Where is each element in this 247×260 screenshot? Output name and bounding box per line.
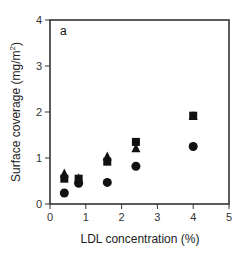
x-axis-title: LDL concentration (%) [81, 232, 200, 246]
y-axis-ticks: 01234 [36, 14, 50, 210]
x-tick-label: 5 [226, 211, 232, 223]
y-tick-label: 4 [36, 14, 42, 26]
square-marker [103, 158, 111, 166]
square-marker [132, 138, 140, 146]
x-tick-label: 1 [83, 211, 89, 223]
square-marker [60, 175, 68, 183]
x-tick-label: 4 [190, 211, 196, 223]
scatter-chart: 01234 012345 a LDL concentration (%) Sur… [0, 0, 247, 260]
circle-marker [189, 142, 198, 151]
x-tick-label: 3 [154, 211, 160, 223]
x-axis-ticks: 012345 [47, 204, 232, 223]
y-axis-title: Surface coverage (mg/m2) [8, 42, 23, 182]
y-axis-title-main: Surface coverage (mg/m [9, 51, 23, 182]
x-tick-label: 2 [119, 211, 125, 223]
panel-label: a [60, 24, 67, 38]
y-axis-title-end: ) [9, 42, 23, 46]
y-tick-label: 1 [36, 152, 42, 164]
x-tick-label: 0 [47, 211, 53, 223]
circle-marker [60, 188, 69, 197]
circle-marker [74, 179, 83, 188]
y-tick-label: 0 [36, 198, 42, 210]
y-tick-label: 3 [36, 60, 42, 72]
square-marker [189, 112, 197, 120]
circle-marker [131, 162, 140, 171]
circle-marker [103, 178, 112, 187]
y-tick-label: 2 [36, 106, 42, 118]
data-points [60, 111, 198, 197]
